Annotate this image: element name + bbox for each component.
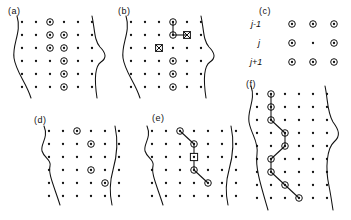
row-index-label-1: j bbox=[257, 38, 261, 48]
selected-node-dot bbox=[284, 184, 286, 186]
grid-dot bbox=[186, 86, 188, 88]
grid-dot bbox=[207, 130, 209, 132]
grid-dot bbox=[144, 21, 146, 23]
selected-node-marker[interactable] bbox=[61, 58, 68, 65]
selected-node-dot bbox=[291, 42, 293, 44]
selected-node-marker[interactable] bbox=[289, 40, 296, 47]
selected-node-dot bbox=[333, 42, 335, 44]
grid-dot bbox=[49, 73, 51, 75]
panel-label-d: (d) bbox=[34, 115, 47, 125]
grid-dot bbox=[312, 42, 314, 44]
grid-dot bbox=[76, 143, 78, 145]
grid-dot bbox=[235, 195, 237, 197]
selected-node-dot bbox=[270, 119, 272, 121]
grid-dot bbox=[151, 182, 153, 184]
selected-node-marker[interactable] bbox=[205, 180, 212, 187]
selected-node-marker[interactable] bbox=[88, 167, 95, 174]
selected-node-dot bbox=[291, 23, 293, 25]
selected-node-marker[interactable] bbox=[74, 128, 81, 135]
selected-node-dot bbox=[291, 61, 293, 63]
grid-dot bbox=[130, 73, 132, 75]
selected-node-marker[interactable] bbox=[177, 128, 184, 135]
grid-dot bbox=[179, 195, 181, 197]
selected-node-dot bbox=[270, 106, 272, 108]
selected-node-dot bbox=[298, 197, 300, 199]
selected-node-dot bbox=[284, 145, 286, 147]
grid-dot bbox=[221, 130, 223, 132]
grid-dot bbox=[298, 93, 300, 95]
grid-dot bbox=[270, 145, 272, 147]
selected-node-marker[interactable] bbox=[310, 21, 317, 28]
selected-node-dot bbox=[312, 23, 314, 25]
grid-dot bbox=[48, 182, 50, 184]
grid-dot bbox=[186, 73, 188, 75]
grid-dot bbox=[104, 195, 106, 197]
grid-dot bbox=[200, 73, 202, 75]
grid-dot bbox=[144, 73, 146, 75]
grid-dot bbox=[130, 86, 132, 88]
grid-dot bbox=[130, 34, 132, 36]
selected-node-dot bbox=[193, 143, 195, 145]
grid-dot bbox=[298, 132, 300, 134]
selected-node-marker[interactable] bbox=[61, 45, 68, 52]
grid-dot bbox=[151, 156, 153, 158]
grid-dot bbox=[235, 143, 237, 145]
selected-node-dot bbox=[179, 130, 181, 132]
rejected-node-marker[interactable] bbox=[156, 45, 163, 52]
grid-dot bbox=[298, 171, 300, 173]
selected-node-marker[interactable] bbox=[170, 58, 177, 65]
panel-c: (c)j-1jj+1 bbox=[249, 6, 337, 67]
selected-node-marker[interactable] bbox=[289, 59, 296, 66]
grid-dot bbox=[77, 34, 79, 36]
selected-node-dot bbox=[76, 130, 78, 132]
grid-dot bbox=[158, 34, 160, 36]
grid-dot bbox=[312, 145, 314, 147]
selected-node-marker[interactable] bbox=[47, 45, 54, 52]
grid-dot bbox=[77, 60, 79, 62]
boundary-curve-b-0 bbox=[123, 16, 140, 98]
selected-node-marker[interactable] bbox=[61, 32, 68, 39]
grid-dot bbox=[256, 145, 258, 147]
selected-node-marker[interactable] bbox=[61, 71, 68, 78]
grid-dot bbox=[91, 73, 93, 75]
selected-node-marker[interactable] bbox=[170, 84, 177, 91]
selected-node-marker[interactable] bbox=[47, 32, 54, 39]
grid-dot bbox=[77, 47, 79, 49]
selected-node-marker[interactable] bbox=[282, 182, 289, 189]
grid-dot bbox=[179, 143, 181, 145]
grid-dot bbox=[256, 106, 258, 108]
selected-node-marker[interactable] bbox=[331, 21, 338, 28]
grid-dot bbox=[90, 182, 92, 184]
grid-dot bbox=[104, 169, 106, 171]
selected-node-marker[interactable] bbox=[61, 84, 68, 91]
selected-node-dot bbox=[90, 169, 92, 171]
grid-dot bbox=[21, 47, 23, 49]
grid-dot bbox=[284, 171, 286, 173]
selected-node-marker[interactable] bbox=[102, 180, 109, 187]
grid-dot bbox=[256, 184, 258, 186]
selected-node-marker[interactable] bbox=[331, 40, 338, 47]
grid-dot bbox=[165, 156, 167, 158]
selected-node-marker[interactable] bbox=[310, 59, 317, 66]
selected-node-marker[interactable] bbox=[170, 71, 177, 78]
selected-node-marker[interactable] bbox=[47, 19, 54, 26]
grid-dot bbox=[130, 21, 132, 23]
grid-dot bbox=[298, 158, 300, 160]
selected-node-marker[interactable] bbox=[289, 21, 296, 28]
grid-dot bbox=[49, 60, 51, 62]
grid-dot bbox=[221, 169, 223, 171]
anchor-node-marker[interactable] bbox=[190, 153, 197, 160]
selected-node-dot bbox=[333, 23, 335, 25]
selected-node-marker[interactable] bbox=[296, 195, 303, 202]
grid-dot bbox=[118, 130, 120, 132]
grid-dot bbox=[172, 47, 174, 49]
grid-dot bbox=[221, 156, 223, 158]
selected-node-marker[interactable] bbox=[331, 59, 338, 66]
boundary-curve-d-1 bbox=[110, 126, 116, 205]
grid-dot bbox=[76, 156, 78, 158]
selected-node-marker[interactable] bbox=[88, 141, 95, 148]
grid-dot bbox=[200, 86, 202, 88]
grid-dot bbox=[284, 106, 286, 108]
grid-dot bbox=[270, 184, 272, 186]
grid-dot bbox=[256, 171, 258, 173]
